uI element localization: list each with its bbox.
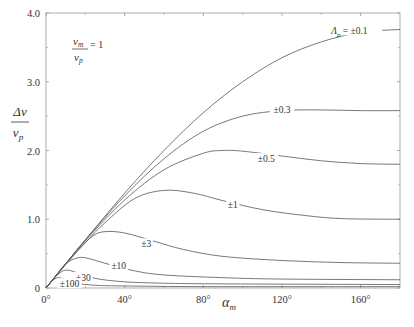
series-line-3 [46,190,400,288]
chart-container: 0°40°80°120°160°01.02.03.04.0 Λp = ±0.1±… [0,0,414,327]
line-chart: 0°40°80°120°160°01.02.03.04.0 Λp = ±0.1±… [0,0,414,327]
annotation-numerator: vm [73,35,84,49]
y-tick-label: 2.0 [27,146,40,157]
curve-label-4: ±3 [141,239,151,249]
y-axis-denominator: vp [13,125,24,142]
x-tick-label: 0° [41,294,50,305]
y-tick-label: 1.0 [27,214,40,225]
x-axis-label: αm [222,295,236,312]
series-line-2 [46,150,400,288]
curve-label-3: ±1 [228,200,238,210]
ratio-annotation: vm vp = 1 [72,35,103,65]
x-tick-label: 40° [117,294,132,305]
y-tick-label: 3.0 [27,77,40,88]
series-line-0 [46,30,400,289]
y-axis-label: Δv vp [11,104,29,142]
curve-labels: Λp = ±0.1±0.3±0.5±1±3±10±30±100 [57,25,382,289]
annotation-denominator: vp [74,51,83,65]
curve-label-7: ±100 [60,279,80,289]
x-tick-label: 120° [272,294,292,305]
y-tick-label: 0 [35,283,40,294]
curve-label-1: ±0.3 [273,105,290,115]
x-tick-label: 160° [351,294,371,305]
data-series [46,30,400,289]
series-line-5 [46,257,400,288]
annotation-equals: = 1 [90,39,103,50]
y-tick-label: 4.0 [27,8,40,19]
curve-label-5: ±10 [111,261,126,271]
y-axis-numerator: Δv [12,104,27,119]
axis-ticks: 0°40°80°120°160°01.02.03.04.0 [27,8,400,305]
x-tick-label: 80° [196,294,211,305]
curve-label-2: ±0.5 [258,154,275,164]
